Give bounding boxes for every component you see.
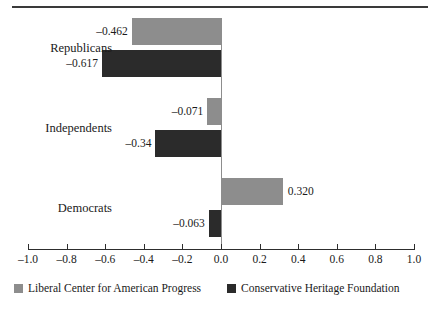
bar-independents-series1 — [207, 98, 221, 125]
bar-value-label: –0.462 — [90, 25, 128, 38]
x-axis-line — [28, 249, 414, 250]
bar-democrats-series1 — [221, 178, 283, 205]
bar-independents-series2 — [155, 130, 221, 157]
plot-area: –0.462–0.617–0.071–0.340.320–0.063 Repub… — [0, 0, 440, 312]
legend-swatch-icon-liberal — [14, 284, 23, 293]
bar-value-label: –0.617 — [60, 57, 98, 70]
x-axis-tick — [414, 244, 415, 250]
bar-value-label: –0.071 — [165, 105, 203, 118]
category-label-independents: Independents — [8, 121, 112, 136]
chart-legend: Liberal Center for American Progress Con… — [14, 282, 426, 294]
bar-republicans-series2 — [102, 50, 221, 77]
bar-democrats-series2 — [209, 210, 221, 237]
category-label-republicans: Republicans — [8, 41, 112, 56]
bar-value-label: 0.320 — [288, 185, 314, 198]
bar-value-label: –0.063 — [167, 217, 205, 230]
category-label-democrats: Democrats — [8, 201, 112, 216]
legend-label-liberal: Liberal Center for American Progress — [28, 282, 201, 294]
legend-swatch-icon-conservative — [227, 284, 236, 293]
legend-item-conservative[interactable]: Conservative Heritage Foundation — [227, 282, 399, 294]
bar-republicans-series1 — [132, 18, 221, 45]
bar-value-label: –0.34 — [113, 137, 151, 150]
zero-reference-line — [221, 18, 222, 249]
x-axis-tick-label: 1.0 — [391, 253, 437, 265]
legend-label-conservative: Conservative Heritage Foundation — [241, 282, 399, 294]
chart-figure: –0.462–0.617–0.071–0.340.320–0.063 Repub… — [0, 0, 440, 312]
legend-item-liberal[interactable]: Liberal Center for American Progress — [14, 282, 201, 294]
